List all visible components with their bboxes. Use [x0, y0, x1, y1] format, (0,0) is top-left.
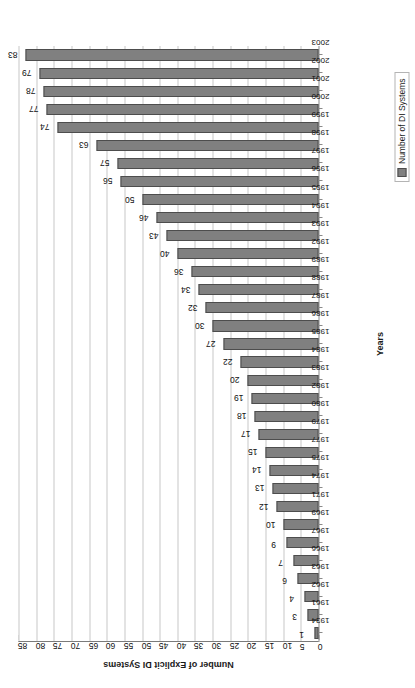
category-tick-label: 1985: [311, 327, 329, 335]
bar-column[interactable]: [18, 104, 318, 115]
bar[interactable]: [177, 248, 318, 259]
bar[interactable]: [265, 447, 318, 458]
bar-column[interactable]: [18, 86, 318, 97]
category-tick-label: 1975: [311, 454, 329, 462]
category-tick-label: 1998: [311, 128, 329, 136]
bar-value-label: 57: [99, 158, 108, 167]
bar[interactable]: [142, 194, 318, 205]
category-tick-label: 1986: [311, 309, 329, 317]
bar-column[interactable]: [18, 609, 318, 620]
bar-column[interactable]: [18, 411, 318, 422]
category-tick-label: 1974: [311, 472, 329, 480]
bar-column[interactable]: [18, 356, 318, 367]
bar[interactable]: [120, 176, 318, 187]
bar-column[interactable]: [18, 465, 318, 476]
bar-value-label: 32: [188, 303, 197, 312]
bar[interactable]: [191, 266, 318, 277]
bar-value-label: 36: [173, 267, 182, 276]
category-tick-label: 1988: [311, 273, 329, 281]
bar[interactable]: [156, 212, 318, 223]
bar-value-label: 22: [223, 357, 232, 366]
category-tick-label: 1987: [311, 291, 329, 299]
value-tick-label: 10: [282, 642, 291, 651]
category-tick-label: 1982: [311, 381, 329, 389]
bar-chart: Number of Explicit DI Systems 8580757065…: [0, 0, 415, 688]
bar-column[interactable]: [18, 591, 318, 602]
bar[interactable]: [39, 68, 318, 79]
bar[interactable]: [96, 140, 318, 151]
bar[interactable]: [57, 122, 318, 133]
bar-column[interactable]: [18, 68, 318, 79]
bar-column[interactable]: [18, 140, 318, 151]
bar-value-label: 83: [8, 50, 17, 59]
bar-column[interactable]: [18, 49, 318, 60]
bar-column[interactable]: [18, 194, 318, 205]
bar[interactable]: [117, 158, 318, 169]
category-tick-label: 1980: [311, 399, 329, 407]
bar-value-label: 77: [29, 104, 38, 113]
bar-value-label: 43: [149, 231, 158, 240]
bar-value-label: 56: [103, 176, 112, 185]
bar-column[interactable]: [18, 501, 318, 512]
value-tick-label: 30: [211, 642, 220, 651]
bar-column[interactable]: [18, 122, 318, 133]
bar[interactable]: [247, 375, 318, 386]
bar-column[interactable]: [18, 338, 318, 349]
bar-column[interactable]: [18, 302, 318, 313]
bar[interactable]: [25, 49, 318, 60]
legend: Number of DI Systems: [392, 73, 410, 183]
bar[interactable]: [46, 104, 318, 115]
bar-column[interactable]: [18, 158, 318, 169]
value-tick-label: 65: [88, 642, 97, 651]
category-tick-label: 1999: [311, 110, 329, 118]
bar-column[interactable]: [18, 320, 318, 331]
bar[interactable]: [223, 338, 318, 349]
bar[interactable]: [212, 320, 318, 331]
bar[interactable]: [205, 302, 318, 313]
bar-value-label: 1: [299, 630, 304, 639]
bar-column[interactable]: [18, 627, 318, 638]
value-tick-label: 55: [123, 642, 132, 651]
bar[interactable]: [43, 86, 318, 97]
category-tick-label: 1969: [311, 508, 329, 516]
bar-column[interactable]: [18, 375, 318, 386]
category-tick-label: 1996: [311, 165, 329, 173]
bar[interactable]: [254, 411, 318, 422]
value-tick-label: 35: [194, 642, 203, 651]
bar-column[interactable]: [18, 176, 318, 187]
category-tick-label: 1977: [311, 435, 329, 443]
value-tick-label: 0: [317, 642, 322, 651]
bar-value-label: 79: [22, 68, 31, 77]
bar-column[interactable]: [18, 266, 318, 277]
bar[interactable]: [258, 429, 318, 440]
bar-column[interactable]: [18, 555, 318, 566]
value-tick-label: 25: [229, 642, 238, 651]
bar[interactable]: [166, 230, 318, 241]
category-tick-label: 1994: [311, 201, 329, 209]
plot-area: 1346791012131415171819202227303234364043…: [18, 46, 318, 642]
bar[interactable]: [251, 393, 318, 404]
bar-column[interactable]: [18, 573, 318, 584]
bar-column[interactable]: [18, 230, 318, 241]
category-axis-line: [18, 641, 318, 642]
bar-column[interactable]: [18, 212, 318, 223]
bar-column[interactable]: [18, 483, 318, 494]
category-tick-label: 1971: [311, 490, 329, 498]
value-tick-label: 80: [35, 642, 44, 651]
category-tick-label: 1967: [311, 526, 329, 534]
bar[interactable]: [314, 627, 318, 638]
bar-column[interactable]: [18, 393, 318, 404]
category-tick-label: 2000: [311, 92, 329, 100]
bar-column[interactable]: [18, 284, 318, 295]
bar-column[interactable]: [18, 429, 318, 440]
legend-box: Number of DI Systems: [394, 73, 409, 183]
bar[interactable]: [198, 284, 318, 295]
category-tick-label: 1983: [311, 363, 329, 371]
bar-column[interactable]: [18, 447, 318, 458]
bar[interactable]: [240, 356, 318, 367]
bar-value-label: 19: [233, 393, 242, 402]
value-tick-label: 5: [300, 642, 305, 651]
value-tick-label: 15: [264, 642, 273, 651]
value-tick-label: 50: [141, 642, 150, 651]
bar-value-label: 63: [78, 140, 87, 149]
